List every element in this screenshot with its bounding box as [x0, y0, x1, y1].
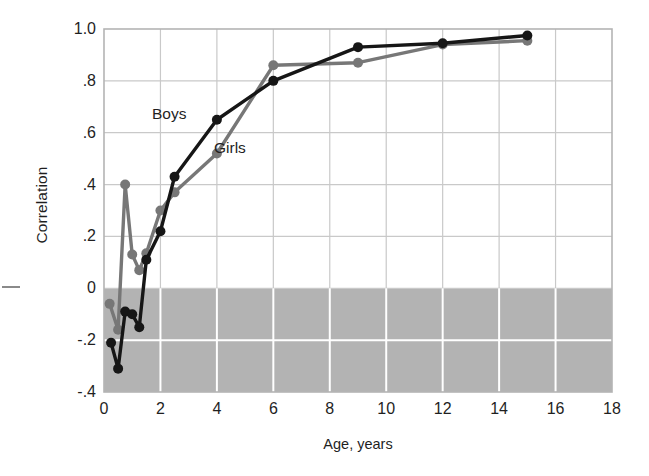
x-tick-label: 14 [479, 400, 519, 418]
data-point-boys [268, 76, 278, 86]
x-axis-tick-labels: 024681012141618 [0, 400, 649, 430]
y-tick-label: .2 [40, 227, 96, 245]
x-tick-label: 12 [423, 400, 463, 418]
data-point-boys [353, 42, 363, 52]
data-point-boys [141, 255, 151, 265]
data-point-boys [155, 226, 165, 236]
data-point-boys [438, 38, 448, 48]
chart-figure: Correlation 1.0.8.6.4.20-.2-.4 Boys Girl… [0, 0, 649, 476]
y-tick-label: .8 [40, 72, 96, 90]
x-tick-label: 16 [536, 400, 576, 418]
margin-tick-mark [2, 286, 20, 288]
data-point-boys [127, 309, 137, 319]
x-tick-label: 6 [253, 400, 293, 418]
y-tick-label: .4 [40, 176, 96, 194]
y-tick-label: -.4 [40, 383, 96, 401]
data-point-girls [120, 180, 130, 190]
data-point-girls [353, 58, 363, 68]
x-tick-label: 2 [140, 400, 180, 418]
data-point-girls [268, 60, 278, 70]
data-point-girls [105, 299, 115, 309]
series-label-boys: Boys [152, 105, 186, 123]
x-tick-label: 4 [197, 400, 237, 418]
y-tick-label: 0 [40, 279, 96, 297]
x-axis-title: Age, years [104, 436, 612, 452]
x-tick-label: 10 [366, 400, 406, 418]
data-point-boys [212, 115, 222, 125]
x-tick-label: 0 [84, 400, 124, 418]
x-tick-label: 18 [592, 400, 632, 418]
data-point-boys [522, 30, 532, 40]
data-point-girls [134, 265, 144, 275]
y-tick-label: 1.0 [40, 20, 96, 38]
data-point-boys [134, 322, 144, 332]
y-tick-label: .6 [40, 124, 96, 142]
data-point-boys [106, 338, 116, 348]
x-tick-label: 8 [310, 400, 350, 418]
data-point-boys [113, 364, 123, 374]
data-point-boys [170, 172, 180, 182]
data-point-girls [127, 250, 137, 260]
series-label-girls: Girls [214, 139, 246, 157]
y-tick-label: -.2 [40, 331, 96, 349]
